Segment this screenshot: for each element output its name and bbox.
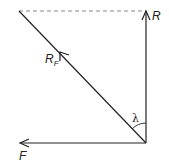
label-f: F bbox=[19, 149, 27, 163]
label-rf-main: R bbox=[45, 52, 54, 66]
force-diagram: R RF λ F bbox=[0, 0, 169, 166]
vector-rf bbox=[19, 11, 146, 143]
label-rf: RF bbox=[45, 52, 60, 68]
arrowhead-rf-icon bbox=[60, 52, 69, 61]
label-lambda: λ bbox=[132, 112, 139, 125]
label-r: R bbox=[152, 9, 161, 23]
label-rf-subscript: F bbox=[54, 59, 60, 68]
